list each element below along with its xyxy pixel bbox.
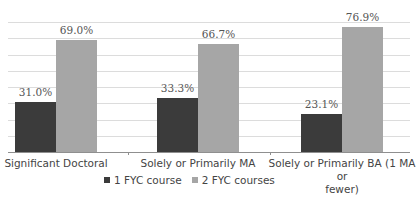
data-label: 69.0%	[47, 24, 107, 36]
category-label: Solely or Primarily BA (1 MA orfewer)	[267, 157, 417, 196]
bar-2-fyc-0	[56, 40, 97, 152]
bar-1-fyc-0	[15, 102, 56, 152]
bar-1-fyc-1	[157, 98, 198, 152]
legend-item: 1 FYC course	[104, 174, 182, 186]
legend: 1 FYC course2 FYC courses	[104, 174, 285, 186]
bar-1-fyc-2	[301, 114, 342, 152]
category-label: Solely or Primarily MA	[128, 157, 268, 170]
bar-2-fyc-1	[198, 44, 239, 152]
legend-item: 2 FYC courses	[192, 174, 275, 186]
bar-2-fyc-2	[342, 27, 383, 152]
bar-chart: 31.0%69.0%33.3%66.7%23.1%76.9% Significa…	[0, 0, 420, 197]
legend-label: 1 FYC course	[114, 174, 182, 186]
legend-swatch-icon	[104, 177, 110, 183]
category-label: Significant Doctoral	[0, 157, 121, 170]
data-label: 76.9%	[333, 11, 393, 23]
data-label: 66.7%	[189, 28, 249, 40]
x-axis-tick	[128, 152, 129, 155]
legend-label: 2 FYC courses	[202, 174, 275, 186]
legend-swatch-icon	[192, 177, 198, 183]
x-axis-tick	[270, 152, 271, 155]
x-axis-line	[8, 152, 410, 153]
